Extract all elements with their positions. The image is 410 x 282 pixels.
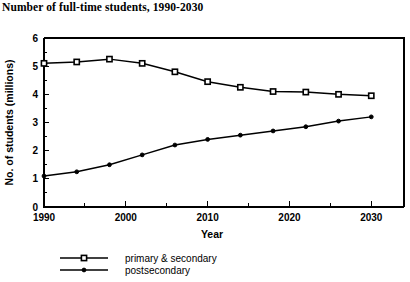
series-line [44, 59, 371, 96]
data-point-marker [173, 143, 177, 147]
data-point-marker [107, 57, 112, 62]
data-point-marker [369, 93, 374, 98]
data-point-marker [42, 174, 46, 178]
x-axis-tick-label: 2020 [278, 212, 301, 223]
line-chart-plot: 012345619902000201020202030YearNo. of st… [0, 0, 410, 282]
legend-label: postsecondary [125, 265, 190, 276]
data-point-marker [74, 59, 79, 64]
chart-figure: Number of full-time students, 1990-2030 … [0, 0, 410, 282]
y-axis-tick-label: 0 [32, 202, 38, 213]
x-axis-tick-label: 2000 [115, 212, 138, 223]
x-axis-tick-label: 1990 [33, 212, 56, 223]
data-point-marker [140, 153, 144, 157]
data-point-marker [270, 89, 275, 94]
y-axis-title: No. of students (millions) [3, 60, 15, 186]
x-axis-title: Year [201, 228, 223, 240]
legend-entry: postsecondary [60, 265, 190, 276]
y-axis-tick-label: 1 [32, 173, 38, 184]
legend-marker [81, 255, 86, 260]
data-point-marker [108, 163, 112, 167]
plot-frame [44, 38, 404, 207]
data-point-marker [238, 85, 243, 90]
data-point-marker [369, 115, 373, 119]
legend-label: primary & secondary [125, 253, 217, 264]
data-point-marker [304, 125, 308, 129]
y-axis-tick-label: 6 [32, 33, 38, 44]
data-point-marker [303, 89, 308, 94]
x-axis-tick-label: 2030 [360, 212, 383, 223]
y-axis-tick-label: 5 [32, 61, 38, 72]
data-point-marker [172, 69, 177, 74]
legend-marker [82, 268, 86, 272]
plot-axes [44, 38, 404, 207]
data-point-marker [337, 119, 341, 123]
y-axis-tick-label: 4 [32, 89, 38, 100]
data-point-marker [75, 170, 79, 174]
data-point-marker [271, 129, 275, 133]
y-axis-tick-label: 3 [32, 117, 38, 128]
series-primary-secondary [41, 57, 373, 99]
data-point-marker [206, 138, 210, 142]
legend-entry: primary & secondary [60, 253, 217, 264]
series-postsecondary [42, 115, 373, 178]
y-axis-tick-label: 2 [32, 145, 38, 156]
data-point-marker [140, 61, 145, 66]
series-line [44, 117, 371, 176]
data-point-marker [41, 61, 46, 66]
x-axis-tick-label: 2010 [197, 212, 220, 223]
data-point-marker [238, 133, 242, 137]
data-point-marker [205, 79, 210, 84]
data-point-marker [336, 92, 341, 97]
